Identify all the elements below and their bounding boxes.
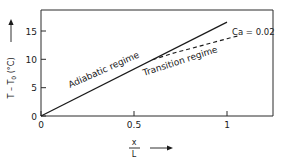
adiabatic-regime-line xyxy=(41,22,227,116)
y-axis-tick-labels: 15 10 5 0 xyxy=(26,27,38,122)
x-axis-tick-labels: 0 0.5 1 xyxy=(38,120,230,130)
y-axis-title-units: (°C) xyxy=(7,57,16,73)
x-axis-ticks xyxy=(41,111,227,116)
ca-value-label: Ca = 0.02 xyxy=(232,27,275,37)
y-axis-ticks xyxy=(41,31,46,116)
x-axis-arrow-group xyxy=(150,145,173,150)
y-axis-title-main: T – T xyxy=(7,80,16,100)
y-tick-label-15: 15 xyxy=(26,27,37,37)
y-axis-title: T – T0 (°C) xyxy=(7,19,17,100)
x-tick-label-0-5: 0.5 xyxy=(127,120,141,130)
x-axis-arrow-head xyxy=(167,145,173,150)
y-tick-label-10: 10 xyxy=(26,55,38,65)
y-tick-label-5: 5 xyxy=(31,83,37,93)
chart-figure: 15 10 5 0 0 0.5 1 Adiabatic regime T xyxy=(0,0,286,164)
x-axis-title-numerator: x xyxy=(132,138,137,147)
x-tick-label-0: 0 xyxy=(38,120,44,130)
y-axis-title-text: T – T0 (°C) xyxy=(7,57,17,99)
transition-regime-label: Transition regime xyxy=(141,44,220,78)
x-axis-title-denominator: L xyxy=(132,150,137,159)
series-adiabatic-regime xyxy=(41,22,227,116)
y-axis-arrow-group xyxy=(8,19,13,42)
curve-label-transition: Transition regime xyxy=(141,44,220,78)
chart-canvas: 15 10 5 0 0 0.5 1 Adiabatic regime T xyxy=(0,0,286,164)
annotation-capillary-number: Ca = 0.02 xyxy=(232,27,275,37)
x-axis-title: x L xyxy=(129,138,173,159)
x-tick-label-1: 1 xyxy=(224,120,230,130)
y-axis-arrow-head xyxy=(8,19,13,25)
y-tick-label-0: 0 xyxy=(31,112,37,122)
